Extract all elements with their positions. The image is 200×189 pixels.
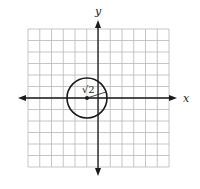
x-axis-label: x (183, 92, 190, 105)
y-axis-label: y (94, 5, 102, 18)
x-axis-left-arrow-icon (18, 95, 26, 101)
radius-label: √2 (82, 84, 95, 95)
coordinate-plane: x y √2 (0, 0, 200, 189)
y-axis-down-arrow-icon (95, 168, 101, 176)
x-axis-right-arrow-icon (169, 95, 177, 101)
y-axis-up-arrow-icon (95, 20, 101, 28)
